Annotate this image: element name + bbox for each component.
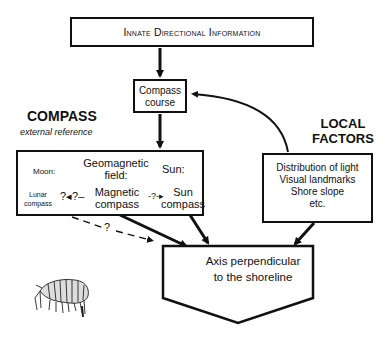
arrow-local-to-axis xyxy=(295,223,314,244)
compass-course-line-1: Compass xyxy=(135,85,185,97)
axis-perpendicular-label: Axis perpendicular to the shoreline xyxy=(180,253,326,285)
arrow-sun-to-axis xyxy=(190,215,208,243)
local-item: Visual landmarks xyxy=(264,174,371,186)
magnetic-compass-label: Magnetic compass xyxy=(84,186,150,210)
sun-label: Sun: xyxy=(162,163,185,175)
moon-label: Moon: xyxy=(33,167,55,176)
compass-course-line-2: course xyxy=(135,97,185,109)
geomagnetic-field-label: Geomagnetic field: xyxy=(78,157,154,181)
local-factors-box: Distribution of light Visual landmarks S… xyxy=(262,153,373,223)
arrow-local-to-course xyxy=(193,94,288,152)
compass-heading: COMPASS xyxy=(27,108,97,124)
lunar-compass-label: Lunar compass xyxy=(24,190,52,208)
local-factors-heading: LOCAL FACTORS xyxy=(312,116,374,146)
dashed-link-question: ? xyxy=(103,221,111,233)
innate-directional-information-box: Innate Directional Information xyxy=(70,17,314,47)
local-item: Shore slope xyxy=(264,186,371,198)
sun-compass-label: Sun compass xyxy=(158,186,208,210)
amphipod-illustration xyxy=(35,279,88,317)
local-item: Distribution of light xyxy=(264,162,371,174)
link-lunar-magnetic: ?◂?– xyxy=(60,190,84,202)
arrow-magnetic-to-axis xyxy=(120,215,186,246)
local-item: etc. xyxy=(264,198,371,210)
compass-reference-box: Moon: Geomagnetic field: Sun: Lunar comp… xyxy=(16,150,204,216)
innate-title: Innate Directional Information xyxy=(124,26,261,38)
compass-subheading: external reference xyxy=(20,127,93,137)
compass-course-box: Compass course xyxy=(133,79,187,113)
